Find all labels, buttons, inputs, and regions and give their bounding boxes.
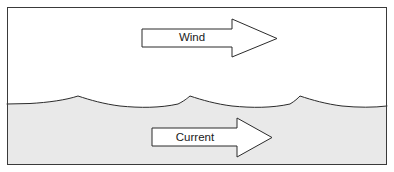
diagram-canvas: Wind Current: [0, 0, 394, 172]
current-arrow-label: Current: [176, 131, 215, 143]
diagram-figure: Wind Current: [0, 0, 394, 172]
wind-arrow-label: Wind: [179, 31, 205, 43]
